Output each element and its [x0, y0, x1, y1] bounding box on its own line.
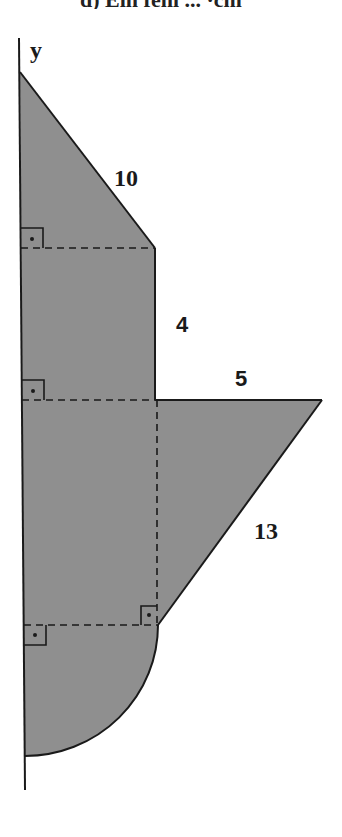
label-top-5: 5 — [235, 366, 247, 391]
composite-shape-fill — [20, 72, 322, 756]
label-hypotenuse-13: 13 — [254, 518, 278, 544]
y-axis-label: y — [30, 37, 42, 63]
label-hypotenuse-10: 10 — [114, 165, 138, 191]
label-side-4: 4 — [176, 312, 189, 337]
composite-figure-diagram: y 10 4 5 13 — [0, 0, 342, 837]
